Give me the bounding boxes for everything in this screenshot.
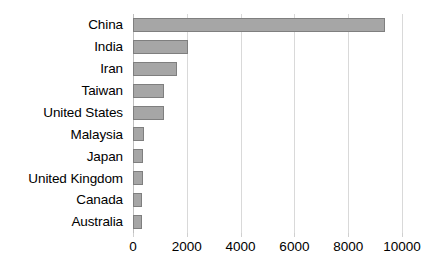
- bar-series: [133, 14, 402, 233]
- bar-row: [133, 36, 402, 58]
- tick-mark: [133, 233, 134, 237]
- category-axis-label: United States: [0, 102, 128, 124]
- bar-india: [133, 40, 188, 54]
- value-axis-label: 0: [129, 240, 137, 254]
- tick-mark: [348, 233, 349, 237]
- value-axis: 0200040006000800010000: [133, 233, 402, 241]
- category-axis-label: Australia: [0, 211, 128, 233]
- bar-china: [133, 18, 385, 32]
- gridline: [402, 14, 403, 233]
- value-axis-label: 8000: [333, 240, 363, 254]
- bar-row: [133, 102, 402, 124]
- bar-iran: [133, 62, 177, 76]
- category-axis-label: India: [0, 36, 128, 58]
- value-axis-label: 6000: [279, 240, 309, 254]
- bar-row: [133, 58, 402, 80]
- bar-malaysia: [133, 127, 144, 141]
- tick-mark: [187, 233, 188, 237]
- bar-united-kingdom: [133, 171, 143, 185]
- bar-japan: [133, 149, 143, 163]
- value-axis-label: 10000: [383, 240, 421, 254]
- category-axis-label: China: [0, 14, 128, 36]
- category-axis-label: Malaysia: [0, 124, 128, 146]
- bar-row: [133, 211, 402, 233]
- category-axis-label: Canada: [0, 189, 128, 211]
- bar-australia: [133, 215, 142, 229]
- bar-row: [133, 124, 402, 146]
- bar-row: [133, 167, 402, 189]
- bar-row: [133, 145, 402, 167]
- category-axis-label: United Kingdom: [0, 167, 128, 189]
- category-axis-label: Iran: [0, 58, 128, 80]
- plot-area: [133, 14, 402, 233]
- tick-mark: [241, 233, 242, 237]
- category-axis-label: Taiwan: [0, 80, 128, 102]
- value-axis-label: 2000: [172, 240, 202, 254]
- bar-chart: China India Iran Taiwan United States Ma…: [0, 0, 442, 274]
- bar-row: [133, 189, 402, 211]
- bar-row: [133, 14, 402, 36]
- bar-taiwan: [133, 84, 164, 98]
- bar-canada: [133, 193, 142, 207]
- tick-mark: [294, 233, 295, 237]
- value-axis-label: 4000: [226, 240, 256, 254]
- tick-mark: [402, 233, 403, 237]
- bar-row: [133, 80, 402, 102]
- category-axis-label: Japan: [0, 145, 128, 167]
- category-axis: China India Iran Taiwan United States Ma…: [0, 14, 128, 233]
- bar-united-states: [133, 106, 164, 120]
